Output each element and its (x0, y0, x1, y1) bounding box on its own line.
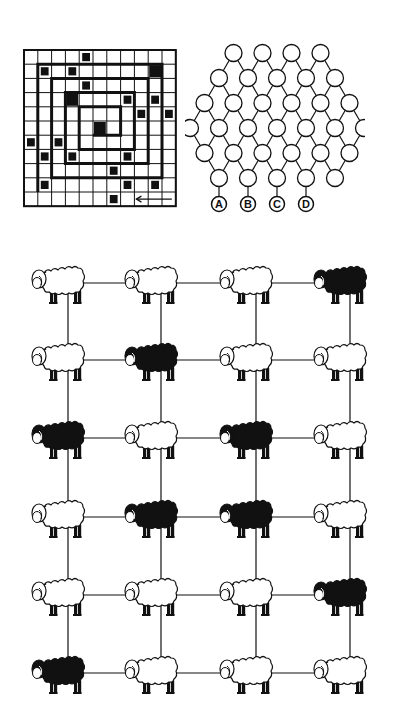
black-sheep (314, 267, 367, 305)
black-cell (94, 122, 106, 134)
black-cell (66, 94, 78, 106)
circle-node (327, 120, 344, 137)
black-cell (68, 67, 76, 75)
circle-node (185, 120, 199, 137)
label-b: B (241, 197, 256, 212)
circle-node (341, 145, 358, 162)
circle-node (211, 120, 228, 137)
white-sheep (125, 267, 178, 305)
black-cell (68, 152, 76, 160)
spiral-grid-puzzle (22, 48, 178, 208)
circle-node (327, 170, 344, 187)
black-cell (82, 53, 90, 61)
sheep-grid-puzzle (20, 255, 380, 695)
label-d: D (299, 197, 314, 212)
svg-text:B: B (244, 198, 252, 210)
black-cell (137, 110, 145, 118)
black-sheep (125, 501, 178, 539)
spiral-grid (22, 48, 178, 208)
circle-node (312, 145, 329, 162)
black-cell (27, 138, 35, 146)
white-sheep (32, 267, 85, 305)
white-sheep (314, 657, 367, 695)
white-sheep (125, 657, 178, 695)
circle-node (254, 45, 271, 62)
black-cell (41, 181, 49, 189)
circle-node (240, 170, 257, 187)
sheep-grid (20, 255, 380, 695)
circle-node (240, 120, 257, 137)
black-sheep (32, 657, 85, 695)
circle-node (196, 95, 213, 112)
circle-node (298, 70, 315, 87)
circle-node (254, 145, 271, 162)
black-cell (55, 138, 63, 146)
circle-node (225, 145, 242, 162)
circle-node (269, 120, 286, 137)
circle-node (211, 70, 228, 87)
left-arrow-icon (136, 196, 171, 202)
white-sheep (220, 657, 273, 695)
circle-node (225, 45, 242, 62)
white-sheep (32, 579, 85, 617)
circle-node (283, 145, 300, 162)
circle-node (341, 95, 358, 112)
circle-node (283, 45, 300, 62)
black-sheep (125, 344, 178, 382)
circle-node (211, 170, 228, 187)
black-cell (124, 96, 132, 104)
circle-node (254, 95, 271, 112)
svg-text:D: D (302, 198, 310, 210)
black-cell (149, 65, 161, 77)
label-c: C (270, 197, 285, 212)
label-a: A (212, 197, 227, 212)
circle-node (298, 120, 315, 137)
svg-text:C: C (273, 198, 281, 210)
white-sheep (220, 267, 273, 305)
white-sheep (125, 422, 178, 460)
white-sheep (314, 501, 367, 539)
black-cell (124, 181, 132, 189)
black-sheep (220, 422, 273, 460)
black-cell (165, 110, 173, 118)
black-sheep (32, 422, 85, 460)
black-cell (41, 152, 49, 160)
black-sheep (220, 501, 273, 539)
circle-node (283, 95, 300, 112)
circle-node (225, 95, 242, 112)
black-cell (110, 195, 118, 203)
circle-node (327, 70, 344, 87)
circle-node (240, 70, 257, 87)
sheep-connector-lines (60, 283, 350, 673)
white-sheep (125, 579, 178, 617)
white-sheep (220, 344, 273, 382)
white-sheep (32, 501, 85, 539)
hex-circle-grid: ABCD (185, 35, 365, 220)
circle-node (196, 145, 213, 162)
white-sheep (314, 344, 367, 382)
black-cell (110, 167, 118, 175)
black-cell (41, 67, 49, 75)
white-sheep (220, 579, 273, 617)
black-cell (82, 81, 90, 89)
black-sheep (314, 579, 367, 617)
hex-circle-puzzle: ABCD (185, 35, 365, 220)
black-cell (124, 152, 132, 160)
circle-node (269, 70, 286, 87)
circle-node (298, 170, 315, 187)
circle-node (269, 170, 286, 187)
svg-text:A: A (215, 198, 223, 210)
white-sheep (32, 344, 85, 382)
black-cell (151, 96, 159, 104)
circle-node (312, 95, 329, 112)
black-cell (151, 181, 159, 189)
white-sheep (314, 422, 367, 460)
circle-node (312, 45, 329, 62)
circle-node (356, 120, 366, 137)
